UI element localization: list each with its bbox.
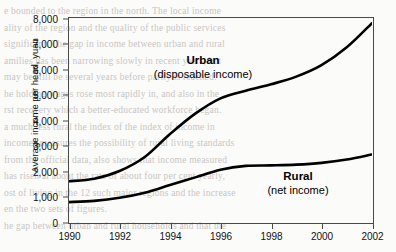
- y-tick-label: 3,000: [18, 141, 58, 152]
- income-line-chart: Average income per head, yuan 01,0002,00…: [0, 0, 396, 252]
- x-tick-label: 1990: [45, 231, 95, 242]
- x-tick-label: 1996: [196, 231, 246, 242]
- x-tick-mark: [373, 224, 374, 229]
- series-label-rural-name: Rural: [238, 170, 358, 184]
- series-label-urban-name: Urban: [138, 54, 268, 68]
- x-tick-mark: [70, 224, 71, 229]
- x-tick-label: 1992: [95, 231, 145, 242]
- series-label-rural: Rural (net income): [238, 170, 358, 197]
- y-tick-label: 2,000: [18, 166, 58, 177]
- y-tick-label: 5,000: [18, 90, 58, 101]
- x-tick-mark: [221, 224, 222, 229]
- y-tick-label: 8,000: [18, 13, 58, 24]
- series-label-urban: Urban (disposable income): [138, 54, 268, 81]
- x-tick-label: 2000: [297, 231, 347, 242]
- x-tick-mark: [171, 224, 172, 229]
- y-tick-label: 6,000: [18, 64, 58, 75]
- y-tick-label: 4,000: [18, 115, 58, 126]
- y-tick-label: 0: [18, 217, 58, 228]
- series-label-urban-sublabel: (disposable income): [138, 68, 268, 81]
- series-line-urban: [69, 23, 372, 181]
- x-tick-label: 1998: [247, 231, 297, 242]
- x-tick-mark: [120, 224, 121, 229]
- x-tick-label: 1994: [146, 231, 196, 242]
- x-tick-label: 2002: [348, 231, 396, 242]
- y-tick-label: 1,000: [18, 192, 58, 203]
- series-label-rural-sublabel: (net income): [238, 184, 358, 197]
- x-tick-mark: [272, 224, 273, 229]
- y-tick-label: 7,000: [18, 39, 58, 50]
- x-tick-mark: [322, 224, 323, 229]
